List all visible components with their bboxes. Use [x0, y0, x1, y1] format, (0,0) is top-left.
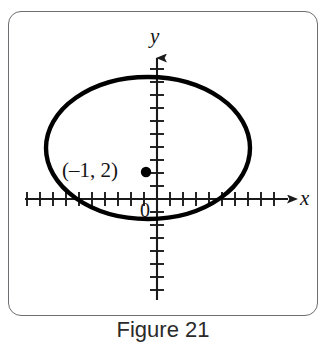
- figure-caption: Figure 21: [0, 318, 326, 341]
- center-point-label: (–1, 2): [62, 160, 118, 181]
- ellipse-curve: [46, 77, 250, 219]
- origin-label: 0: [140, 200, 150, 220]
- y-axis-label: y: [150, 26, 159, 47]
- center-point-marker: [141, 167, 151, 177]
- x-axis-label: x: [300, 188, 309, 209]
